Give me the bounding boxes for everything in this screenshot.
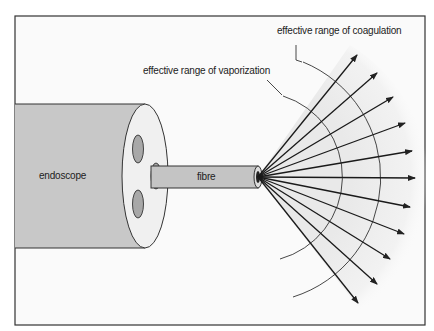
fibre-label: fibre bbox=[197, 171, 215, 182]
channel-bottom bbox=[133, 190, 144, 218]
endoscope-label: endoscope bbox=[39, 170, 86, 181]
coagulation-label: effective range of coagulation bbox=[277, 25, 401, 36]
vaporization-label: effective range of vaporization bbox=[143, 65, 270, 76]
channel-top bbox=[133, 135, 144, 163]
endoscope bbox=[15, 104, 168, 248]
laser-endoscope-diagram bbox=[0, 0, 434, 331]
